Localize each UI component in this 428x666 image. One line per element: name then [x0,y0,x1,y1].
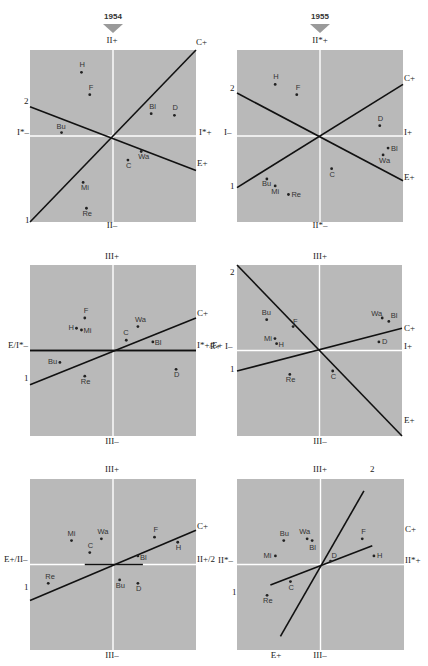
data-point-label: Bl [309,543,316,552]
axis-label: I– [224,127,232,137]
axis-label: C+ [404,323,415,333]
axis-label: III– [300,436,340,446]
axis-label: 1 [24,582,29,592]
data-point-label: C [88,541,94,550]
data-point-bl [311,539,314,542]
data-point-label: H [79,60,84,69]
scatter-panel-4: BuFMiHWaBlDReC [237,265,402,436]
data-point-label: C [126,161,132,170]
panel-plot-area: MiWaCFHBlReBuD [30,479,196,650]
data-point-h [274,83,277,86]
data-point-wa [306,537,309,540]
scatter-panel-5: MiWaCFHBlReBuD [30,479,196,650]
data-point-label: Mi [271,187,279,196]
panel-plot-area: HFBlDBuWaCMiRe [30,50,196,222]
data-point-label: Bu [48,357,57,366]
axis-label: II*– [218,555,233,565]
data-point-mi [274,555,277,558]
scatter-panel-2: HFDBlWaCBuMiRe [237,50,403,222]
factor-plot-figure: 1954 1955 HFBlDBuWaCMiReII+II–I*–I*+C+E+… [0,0,428,666]
data-point-bu [282,539,285,542]
axis-label: I+ [404,341,412,351]
data-point-bl [151,341,154,344]
data-point-label: H [273,72,278,81]
axis-label: III+ [300,251,340,261]
axis-label: C+ [405,524,416,534]
data-point-label: Wa [371,309,383,318]
axis-label: 2 [24,96,29,106]
data-point-h [75,327,78,330]
data-point-label: D [332,551,338,560]
axis-label: II*– [300,220,340,230]
data-point-label: H [68,323,73,332]
data-point-label: Mi [83,326,91,335]
data-point-label: D [174,370,180,379]
axis-label: 1 [230,364,235,374]
panel-plot-area: HFDBlWaCBuMiRe [237,50,403,222]
panel-plot-area: BuFMiHWaBlDReC [237,265,402,436]
data-point-wa [137,325,140,328]
data-point-label: Re [45,572,55,581]
data-point-re [287,193,290,196]
data-point-bl [150,112,153,115]
axis-label: 1 [24,373,29,383]
data-point-f [153,536,156,539]
axis-label: I*+ [199,127,212,137]
data-point-label: Mi [264,334,272,343]
axis-label: II+/2 [197,554,215,564]
axis-label: E+/II– [4,554,28,564]
data-point-label: Bl [149,102,156,111]
data-point-label: Re [82,209,92,218]
year-label-1955: 1955 [300,12,340,21]
axis-label: E+ [404,172,415,182]
data-point-label: D [382,337,388,346]
axis-label: E+ [210,341,221,351]
data-point-bu [58,361,61,364]
axis-label: C+ [404,73,415,83]
data-point-label: Mi [263,551,271,560]
data-point-label: Mi [81,183,89,192]
axis-label: I+ [404,127,412,137]
data-point-f [88,93,91,96]
data-point-d [329,560,332,563]
data-point-label: D [378,114,384,123]
year-label-1954: 1954 [93,12,133,21]
axis-label: I*– [17,127,29,137]
data-point-h [373,555,376,558]
axis-label: C+ [197,521,208,531]
data-point-mi [80,329,83,332]
data-point-bu [265,318,268,321]
data-point-c [125,339,128,342]
data-point-label: F [154,525,159,534]
data-point-label: Bl [391,144,398,153]
data-point-label: Bl [155,338,162,347]
data-point-label: H [377,551,382,560]
data-point-label: Mi [68,529,76,538]
data-point-re [47,582,50,585]
axis-label: III– [92,436,132,446]
scatter-panel-6: BuWaBlMiDFHCRe [237,479,404,650]
data-point-label: Re [291,190,301,199]
data-point-label: F [361,527,366,536]
data-point-f [292,325,295,328]
axis-label: E+ [197,158,208,168]
data-point-bl [137,555,140,558]
axis-label: E+ [404,415,415,425]
data-point-label: Wa [138,152,150,161]
data-point-label: Re [81,377,91,386]
data-point-label: Wa [97,527,109,536]
data-point-label: Bl [140,553,147,562]
axis-label: 1 [232,587,237,597]
data-point-label: Bu [262,308,271,317]
axis-label: E+ [256,650,296,660]
data-point-f [361,537,364,540]
year-marker-1955-icon [310,24,330,33]
axis-label: I– [225,341,233,351]
data-point-d [378,124,381,127]
vector-line-long [280,491,364,636]
axis-label: II*+ [300,35,340,45]
data-point-label: Bu [57,122,66,131]
data-point-label: C [288,583,294,592]
panel-plot-area: FHMiWaCBlBuReD [30,265,196,436]
axis-label: III– [92,650,132,660]
